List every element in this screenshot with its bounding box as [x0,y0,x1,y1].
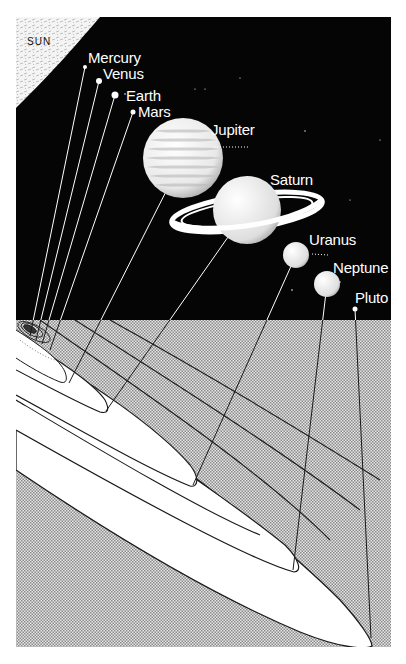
planet-venus [96,78,102,84]
label-neptune: Neptune [333,260,388,275]
sun-label: SUN [27,36,51,47]
label-saturn: Saturn [270,172,313,187]
label-pluto: Pluto [355,290,388,305]
label-venus: Venus [103,66,144,81]
solar-system-diagram: SUN MercuryVenusEarthMarsJupiterSaturnUr… [0,0,406,664]
planet-uranus [283,242,309,268]
planet-earth [112,92,119,99]
label-mars: Mars [138,104,171,119]
label-earth: Earth [126,88,161,103]
planet-mars [131,110,136,115]
label-uranus: Uranus [309,232,356,247]
label-jupiter: Jupiter [211,122,255,137]
diagram-canvas [0,0,406,664]
label-mercury: Mercury [88,50,141,65]
planet-pluto [353,307,358,312]
planet-mercury [83,65,87,69]
